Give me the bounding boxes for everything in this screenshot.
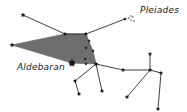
- star-icon: [156, 107, 161, 111]
- pleiades-dot: [130, 19, 131, 20]
- constellation-line: [127, 70, 150, 97]
- constellation-line: [96, 64, 102, 91]
- star-icon: [100, 89, 105, 93]
- constellation-line: [23, 15, 65, 34]
- star-icon: [123, 17, 127, 21]
- constellation-line: [86, 19, 125, 34]
- pleiades-label: Pleiades: [140, 5, 179, 15]
- constellation-line: [75, 81, 79, 94]
- star-icon: [77, 92, 82, 96]
- constellation-line: [75, 64, 96, 81]
- pleiades-dot: [132, 16, 133, 17]
- star-icon: [121, 68, 126, 72]
- pleiades-dot: [128, 17, 129, 18]
- pleiades-dot: [133, 20, 134, 21]
- constellation-line: [158, 73, 161, 109]
- pleiades-dot: [130, 15, 131, 16]
- star-icon: [10, 42, 15, 47]
- shaded-triangle: [12, 34, 96, 64]
- star-icon: [21, 12, 26, 17]
- hyades-region-fill: [12, 34, 96, 64]
- aldebaran-label: Aldebaran: [17, 62, 65, 72]
- constellation-line: [96, 64, 123, 70]
- pleiades-cluster-dots: [128, 15, 134, 21]
- taurus-constellation-diagram: [0, 0, 187, 112]
